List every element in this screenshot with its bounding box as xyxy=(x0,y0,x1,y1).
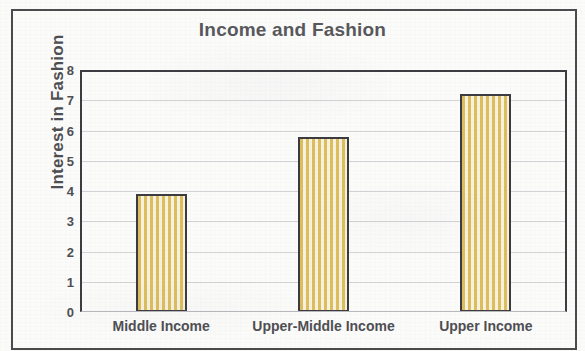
y-axis-tick-label: 0 xyxy=(46,305,74,320)
x-axis-category-labels: Middle IncomeUpper-Middle IncomeUpper In… xyxy=(80,318,567,344)
plot-area: 876543210 xyxy=(80,70,567,312)
bar xyxy=(298,137,349,312)
x-axis-category-label: Upper Income xyxy=(439,318,532,334)
chart-page: Income and Fashion Interest in Fashion 8… xyxy=(0,0,585,351)
y-axis-title: Interest in Fashion xyxy=(47,12,69,212)
chart-title: Income and Fashion xyxy=(0,19,585,41)
y-axis-tick-label: 1 xyxy=(46,274,74,289)
x-axis-category-label: Upper-Middle Income xyxy=(252,318,394,334)
y-axis-tick-label: 2 xyxy=(46,244,74,259)
x-axis-category-label: Middle Income xyxy=(113,318,210,334)
bar xyxy=(136,194,187,312)
bar xyxy=(460,94,511,312)
y-axis-tick-label: 3 xyxy=(46,214,74,229)
